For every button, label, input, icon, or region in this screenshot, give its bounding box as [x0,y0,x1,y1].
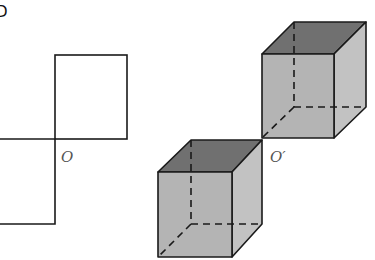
upper-cube-front-face [262,54,334,138]
plane-squares [0,55,127,224]
origin-label: O [61,148,73,166]
origin-prime-label: O′ [270,148,286,166]
diagram-canvas: D O O′ [0,0,375,260]
lower-cube-front-face [158,172,232,257]
upper-cube [262,22,366,138]
lower-square [0,139,55,224]
lower-cube [158,140,262,257]
upper-square [55,55,127,139]
corner-label: D [0,3,8,21]
